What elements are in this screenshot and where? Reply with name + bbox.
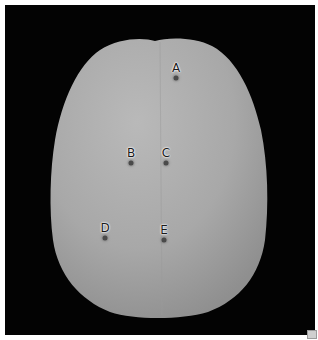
watermark-icon xyxy=(307,330,317,339)
marker-label-e: E xyxy=(160,224,168,236)
marker-point-a xyxy=(174,76,179,81)
marker-label-d: D xyxy=(100,222,109,234)
marker-point-c xyxy=(164,161,169,166)
skull-outline xyxy=(51,38,268,318)
marker-label-b: B xyxy=(127,147,135,159)
marker-point-e xyxy=(162,238,167,243)
marker-label-a: A xyxy=(172,62,180,74)
marker-point-b xyxy=(129,161,134,166)
marker-point-d xyxy=(103,236,108,241)
skull-illustration xyxy=(0,0,318,340)
marker-label-c: C xyxy=(162,147,170,159)
